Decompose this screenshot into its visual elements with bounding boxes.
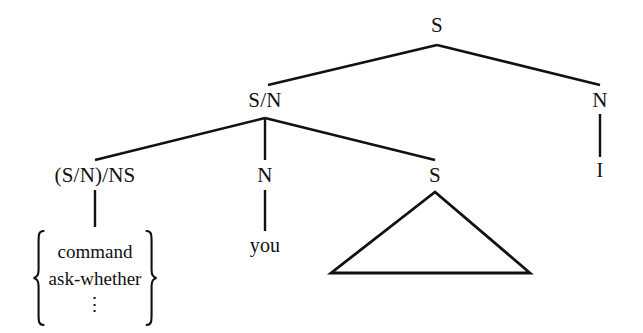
terminal-you: you bbox=[250, 235, 281, 255]
syntactic-tree-figure: S S/N N I (S/N)/NS N you S command ask-w… bbox=[0, 0, 643, 333]
node-middle-n: N bbox=[257, 165, 272, 186]
elided-subtree-triangle bbox=[331, 192, 530, 273]
edge-root-s-to-s-over-n bbox=[268, 45, 437, 85]
vertical-ellipsis-icon: ⋮ bbox=[85, 293, 104, 318]
terminal-i: I bbox=[597, 160, 604, 180]
edge-root-s-to-right-n bbox=[437, 45, 600, 85]
node-s-over-n: S/N bbox=[248, 90, 281, 111]
node-embedded-s: S bbox=[429, 165, 441, 186]
node-right-n: N bbox=[592, 90, 607, 111]
edge-s-over-n-to-functor bbox=[95, 118, 265, 160]
left-curly-brace-icon bbox=[32, 229, 46, 327]
edge-s-over-n-to-embedded-s bbox=[265, 118, 435, 160]
lexical-item-ask-whether: ask-whether bbox=[49, 266, 142, 293]
right-curly-brace-icon bbox=[144, 229, 158, 327]
node-functor-category: (S/N)/NS bbox=[55, 165, 136, 186]
lexical-set-items: command ask-whether ⋮ bbox=[46, 229, 145, 327]
lexical-set-group: command ask-whether ⋮ bbox=[32, 229, 159, 327]
lexical-item-command: command bbox=[58, 239, 133, 266]
node-root-s: S bbox=[431, 15, 443, 36]
